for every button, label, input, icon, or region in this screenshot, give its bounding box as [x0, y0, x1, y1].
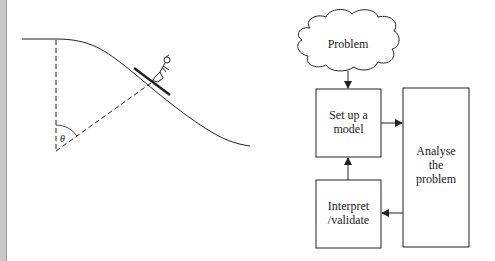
- setup-model-line1: Set up a: [329, 108, 368, 122]
- analyse-line3: problem: [416, 172, 457, 186]
- theta-label: θ: [60, 133, 65, 144]
- setup-model-line2: model: [334, 122, 365, 136]
- analyse-line1: Analyse: [416, 144, 455, 158]
- interpret-line2: /validate: [328, 213, 369, 227]
- interpret-line1: Interpret: [328, 199, 370, 213]
- flowchart: Problem Set up a model Interpret /valida…: [298, 9, 469, 248]
- problem-label: Problem: [328, 37, 369, 51]
- diagram-canvas: θ Problem Set up a model Interpret /vali…: [0, 0, 495, 261]
- analyse-line2: the: [429, 158, 444, 172]
- skier-icon: [134, 55, 170, 95]
- radius-dashed-line: [56, 83, 151, 151]
- slope-figure: θ: [22, 39, 250, 151]
